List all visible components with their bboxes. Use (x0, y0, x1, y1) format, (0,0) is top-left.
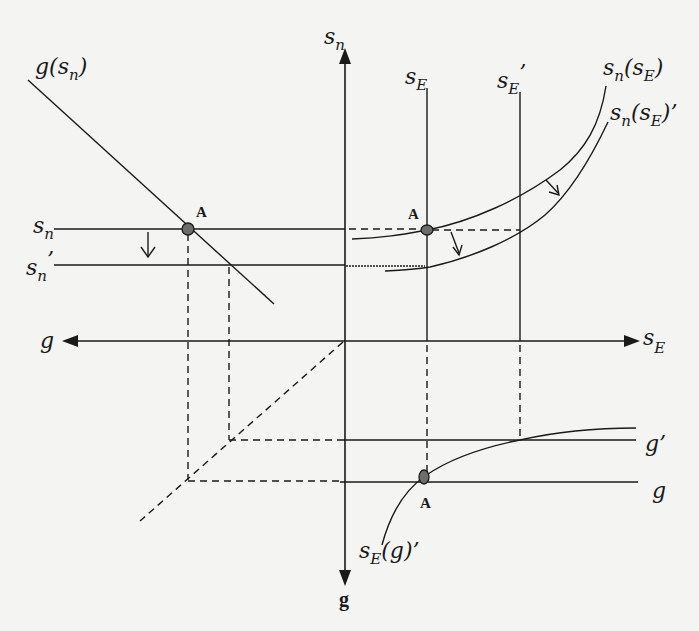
label-sn-of-sE: sn(sE) (603, 55, 663, 85)
label-g-of-sn: g(sn) (35, 54, 87, 84)
arrow-down-icon (339, 570, 351, 586)
svg-text:A: A (196, 204, 207, 220)
four-quadrant-diagram: sn g g sE g(sn) sn sn’ sE sE’ sn(sE) (0, 0, 699, 631)
svg-text:A: A (420, 495, 431, 511)
vertical-axis (339, 48, 351, 586)
point-A-upper-left: A (182, 204, 207, 235)
horizontal-axis (62, 335, 640, 347)
label-sn-prime: sn’ (26, 247, 54, 285)
axis-label-sE: sE (643, 325, 665, 357)
label-sE: sE (405, 64, 427, 94)
shift-down-arrow-icon (141, 232, 155, 257)
axis-label-g-left: g (40, 328, 54, 353)
point-A-upper-right: A (408, 206, 433, 235)
arrow-left-icon (62, 335, 78, 347)
sn-of-sE-curve (352, 86, 606, 239)
label-g-prime: g’ (645, 431, 666, 456)
sE-of-g-prime-curve (382, 428, 636, 545)
forty-five-degree-line (140, 342, 343, 521)
axis-label-g-bottom: g (339, 588, 349, 611)
svg-text:A: A (408, 206, 419, 222)
label-g: g (652, 478, 666, 503)
label-sn: sn (33, 213, 54, 243)
point-A-lower-right: A (419, 470, 431, 511)
axis-label-sn: sn (324, 24, 345, 54)
label-sn-of-sE-prime: sn(sE)’ (610, 100, 677, 130)
curve-shift-arrow-lower-icon (451, 232, 462, 255)
sn-of-sE-prime-curve (385, 122, 608, 271)
arrow-right-icon (624, 335, 640, 347)
label-sE-of-g-prime: sE(g)’ (359, 538, 420, 568)
label-sE-prime: sE’ (497, 60, 526, 98)
g-of-sn-line (28, 80, 274, 304)
curve-shift-arrow-upper-icon (546, 180, 559, 195)
